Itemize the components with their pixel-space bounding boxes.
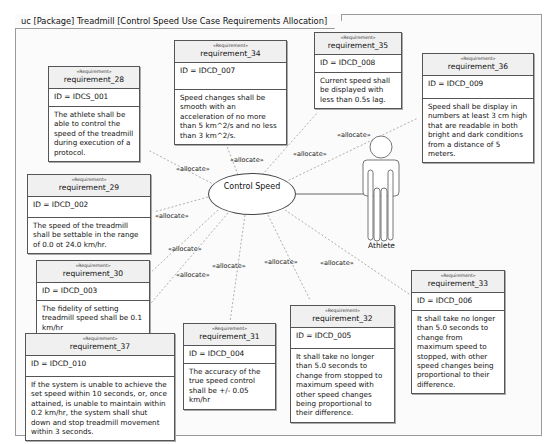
requirement-37[interactable]: «Requirement»requirement_37 ID = IDCD_01… — [25, 333, 175, 441]
requirement-text: If the system is unable to achieve the s… — [26, 377, 174, 440]
allocate-label: «allocate» — [320, 259, 354, 267]
requirement-31[interactable]: «Requirement»requirement_31 ID = IDCD_00… — [183, 323, 276, 410]
requirement-id: ID = IDCD_007 — [175, 63, 286, 90]
requirement-34[interactable]: «Requirement»requirement_34 ID = IDCD_00… — [174, 40, 287, 145]
allocate-label: «allocate» — [337, 131, 371, 139]
requirement-30[interactable]: «Requirement»requirement_30 ID = IDCD_00… — [36, 260, 150, 337]
requirement-text: The accuracy of the true speed control s… — [184, 364, 275, 409]
requirement-name: requirement_37 — [28, 342, 172, 352]
requirement-name: requirement_36 — [425, 62, 531, 72]
requirement-id: ID = IDCS_001 — [49, 89, 139, 107]
allocate-label: «allocate» — [176, 271, 210, 279]
requirement-text: It shall take no longer than 5.0 seconds… — [291, 349, 394, 422]
requirement-name: requirement_32 — [293, 314, 392, 324]
requirement-32[interactable]: «Requirement»requirement_32 ID = IDCD_00… — [290, 305, 395, 423]
requirement-id: ID = IDCD_005 — [291, 328, 394, 349]
requirement-text: Speed changes shall be smooth with an ac… — [175, 90, 286, 144]
requirement-text: The fidelity of setting treadmill speed … — [37, 301, 149, 336]
requirement-name: requirement_29 — [30, 183, 148, 193]
requirement-id: ID = IDCD_006 — [412, 293, 504, 311]
requirement-id: ID = IDCD_008 — [315, 55, 401, 73]
allocate-label: «allocate» — [293, 150, 327, 158]
actor-icon — [363, 136, 399, 241]
requirement-text: Current speed shall be displayed with le… — [315, 73, 401, 108]
requirement-name: requirement_35 — [317, 41, 399, 51]
requirement-text: The athlete shall be able to control the… — [49, 107, 139, 161]
requirement-33[interactable]: «Requirement»requirement_33 ID = IDCD_00… — [411, 270, 505, 394]
actor-label: Athlete — [368, 241, 395, 250]
allocate-label: «allocate» — [230, 156, 264, 164]
requirement-id: ID = IDCD_004 — [184, 346, 275, 364]
allocate-label: «allocate» — [212, 262, 246, 270]
requirement-name: requirement_31 — [186, 332, 273, 342]
use-case-control-speed[interactable]: Control Speed — [208, 173, 296, 215]
requirement-28[interactable]: «Requirement»requirement_28 ID = IDCS_00… — [48, 66, 140, 162]
allocate-label: «allocate» — [155, 212, 189, 220]
requirement-id: ID = IDCD_003 — [37, 283, 149, 301]
requirement-text: Speed shall be display in numbers at lea… — [423, 99, 533, 162]
requirement-name: requirement_33 — [414, 279, 502, 289]
requirement-text: The speed of the treadmill shall be sett… — [28, 218, 150, 253]
requirement-id: ID = IDCD_002 — [28, 197, 150, 218]
allocate-label: «allocate» — [176, 165, 210, 173]
requirement-name: requirement_28 — [51, 75, 137, 85]
requirement-29[interactable]: «Requirement»requirement_29 ID = IDCD_00… — [27, 174, 151, 254]
requirement-name: requirement_30 — [39, 269, 147, 279]
requirement-id: ID = IDCD_009 — [423, 76, 533, 99]
allocate-label: «allocate» — [264, 258, 298, 266]
requirement-text: It shall take no longer than 5.0 seconds… — [412, 311, 504, 393]
requirement-name: requirement_34 — [177, 49, 284, 59]
requirement-id: ID = IDCD_010 — [26, 356, 174, 377]
requirement-35[interactable]: «Requirement»requirement_35 ID = IDCD_00… — [314, 32, 402, 109]
requirement-36[interactable]: «Requirement»requirement_36 ID = IDCD_00… — [422, 53, 534, 163]
allocate-line-29 — [154, 197, 208, 212]
allocate-label: «allocate» — [168, 245, 202, 253]
